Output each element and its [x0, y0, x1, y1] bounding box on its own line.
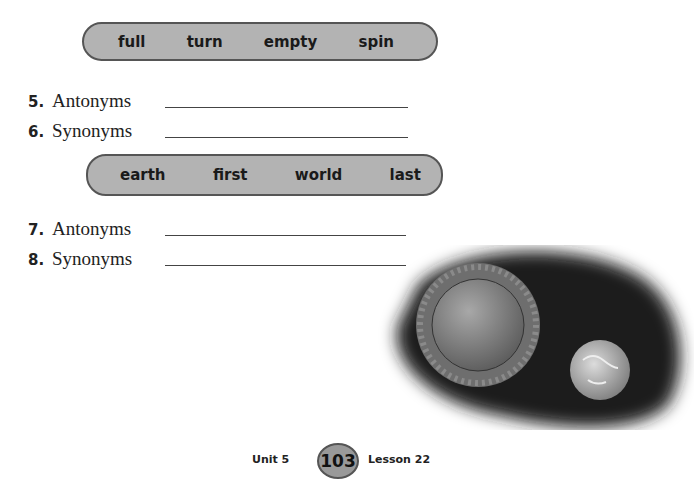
- page-number-badge: 103: [317, 443, 359, 479]
- word: world: [295, 166, 342, 184]
- item-number: 5.: [28, 93, 52, 111]
- exercise-item-5: 5. Antonyms: [28, 90, 131, 116]
- exercise-item-8: 8. Synonyms: [28, 248, 132, 274]
- item-number: 8.: [28, 251, 52, 269]
- item-number: 7.: [28, 221, 52, 239]
- earth-icon: [570, 340, 630, 400]
- word: full: [118, 33, 146, 51]
- item-number: 6.: [28, 123, 52, 141]
- item-label: Synonyms: [52, 248, 132, 270]
- exercise-item-7: 7. Antonyms: [28, 218, 131, 244]
- page-footer: Unit 5 103 Lesson 22: [0, 443, 694, 479]
- sun-icon: [416, 263, 540, 387]
- item-label: Synonyms: [52, 120, 132, 142]
- word: empty: [264, 33, 318, 51]
- sun-earth-illustration: [378, 245, 694, 430]
- word: first: [213, 166, 248, 184]
- word: last: [390, 166, 421, 184]
- unit-label: Unit 5: [252, 453, 289, 466]
- word-box-2: earth first world last: [86, 154, 443, 196]
- word: earth: [120, 166, 166, 184]
- item-label: Antonyms: [52, 90, 131, 112]
- word: spin: [359, 33, 395, 51]
- item-label: Antonyms: [52, 218, 131, 240]
- answer-line-6[interactable]: [165, 137, 408, 138]
- word: turn: [187, 33, 223, 51]
- answer-line-7[interactable]: [165, 235, 406, 236]
- word-box-1: full turn empty spin: [82, 22, 438, 61]
- answer-line-8[interactable]: [165, 265, 406, 266]
- answer-line-5[interactable]: [165, 107, 408, 108]
- exercise-item-6: 6. Synonyms: [28, 120, 132, 146]
- lesson-label: Lesson 22: [368, 453, 430, 466]
